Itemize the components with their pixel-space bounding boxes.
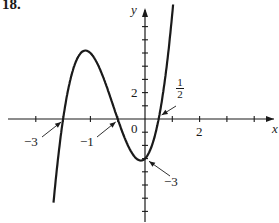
annotation-x-intercept-neg3: −3 xyxy=(24,134,38,150)
x-tick-label-2: 2 xyxy=(196,124,203,140)
origin-label: 0 xyxy=(131,121,138,137)
annotation-x-intercept-neg1: −1 xyxy=(80,134,94,150)
y-axis-label: y xyxy=(131,2,137,18)
annotation-arrows xyxy=(42,106,176,176)
x-axis-label: x xyxy=(272,121,278,137)
annotation-x-intercept-half: 1 2 xyxy=(176,77,184,100)
function-curve xyxy=(54,5,174,203)
cubic-graph xyxy=(0,0,279,223)
annotation-y-intercept-neg3: −3 xyxy=(164,174,178,190)
axes xyxy=(8,8,274,222)
y-tick-label-2: 2 xyxy=(131,85,138,101)
